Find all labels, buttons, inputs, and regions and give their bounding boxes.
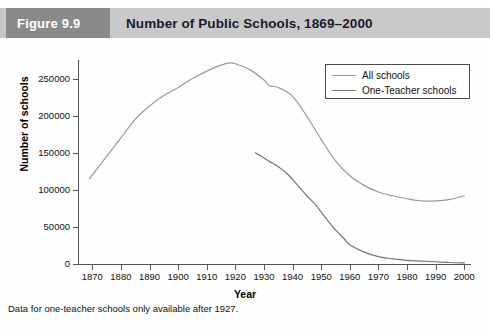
- y-tick-mark: [73, 264, 78, 265]
- x-tick-mark: [178, 265, 179, 270]
- legend-item-one-teacher-schools: One-Teacher schools: [332, 83, 469, 98]
- y-tick-label: 50000: [12, 221, 70, 232]
- legend-label-one-teacher-schools: One-Teacher schools: [362, 85, 457, 96]
- legend-swatch-all-schools: [332, 75, 356, 76]
- y-tick-label: 200000: [12, 110, 70, 121]
- legend-item-all-schools: All schools: [332, 68, 469, 83]
- figure-container: Figure 9.9 Number of Public Schools, 186…: [0, 0, 490, 333]
- y-tick-label: 0: [12, 258, 70, 269]
- y-tick-label: 250000: [12, 73, 70, 84]
- x-axis-line: [78, 264, 471, 265]
- series-line-one-teacher-schools: [255, 153, 464, 263]
- x-tick-mark: [436, 265, 437, 270]
- y-tick-label: 150000: [12, 147, 70, 158]
- x-tick-mark: [350, 265, 351, 270]
- y-tick-label: 100000: [12, 184, 70, 195]
- x-tick-mark: [293, 265, 294, 270]
- x-tick-mark: [150, 265, 151, 270]
- x-tick-mark: [464, 265, 465, 270]
- x-tick-mark: [207, 265, 208, 270]
- figure-footnote: Data for one-teacher schools only availa…: [8, 303, 238, 314]
- figure-number-badge: Figure 9.9: [6, 8, 110, 38]
- x-tick-mark: [92, 265, 93, 270]
- x-tick-mark: [121, 265, 122, 270]
- x-tick-label: 2000: [444, 271, 484, 282]
- x-tick-mark: [264, 265, 265, 270]
- x-tick-mark: [321, 265, 322, 270]
- x-tick-mark: [378, 265, 379, 270]
- x-tick-mark: [407, 265, 408, 270]
- legend-label-all-schools: All schools: [362, 70, 410, 81]
- x-tick-mark: [235, 265, 236, 270]
- legend-swatch-one-teacher-schools: [332, 90, 356, 91]
- x-axis-title: Year: [0, 288, 490, 300]
- chart-legend: All schools One-Teacher schools: [325, 64, 470, 99]
- figure-title: Number of Public Schools, 1869–2000: [126, 8, 373, 38]
